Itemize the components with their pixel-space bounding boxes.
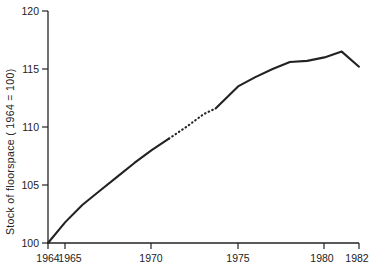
y-tick-label-100: 100: [21, 237, 39, 249]
y-tick-label-105: 105: [21, 179, 39, 191]
series-line-observed-early: [48, 139, 169, 243]
y-axis-tick-labels: 120 115 110 105 100: [21, 5, 39, 249]
x-tick-label-1980: 1980: [310, 252, 334, 264]
line-chart-svg: Stock of floorspace ( 1964 = 100) 120 11…: [0, 0, 372, 271]
series-line-observed-late: [216, 52, 359, 109]
y-tick-label-115: 115: [22, 63, 39, 75]
series-line-interpolated: [169, 108, 216, 138]
y-tick-label-110: 110: [22, 121, 39, 133]
x-tick-label-1965: 1965: [58, 252, 82, 264]
x-tick-label-1970: 1970: [139, 252, 163, 264]
y-axis-ticks: [42, 11, 48, 243]
x-axis-tick-labels: 1964 1965 1970 1975 1980 1982: [36, 252, 369, 264]
x-tick-label-1975: 1975: [226, 252, 250, 264]
chart-figure: Stock of floorspace ( 1964 = 100) 120 11…: [0, 0, 372, 271]
x-tick-label-1982: 1982: [345, 252, 369, 264]
y-tick-label-120: 120: [21, 5, 39, 17]
y-axis-title: Stock of floorspace ( 1964 = 100): [4, 68, 16, 235]
x-tick-label-1964: 1964: [36, 252, 60, 264]
x-axis-ticks: [48, 243, 359, 249]
